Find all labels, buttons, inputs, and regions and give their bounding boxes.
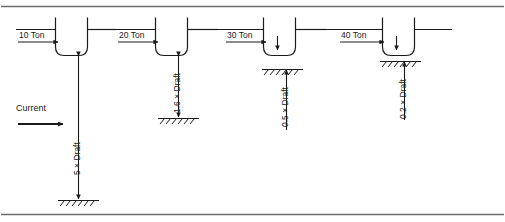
seabed-2	[158, 119, 199, 125]
clearance-label-4: 0.2 × Draft	[399, 79, 408, 119]
clearance-label-3: 0.5 × Draft	[281, 87, 290, 127]
diagram-canvas	[0, 0, 505, 222]
vessel-hull-2	[156, 18, 188, 56]
tow-force-label-2: 20 Ton	[119, 31, 144, 40]
current-label: Current	[16, 104, 46, 113]
tow-force-label-4: 40 Ton	[341, 31, 366, 40]
vessel-hull-3	[264, 18, 296, 56]
figure-frame	[1, 7, 504, 215]
vessel-hull-1	[56, 18, 88, 56]
shallow-water-tow-force-diagram: 10 Ton 20 Ton 30 Ton 40 Ton Current 5 × …	[0, 0, 505, 222]
seabed-4	[380, 62, 421, 68]
clearance-label-1: 5 × Draft	[73, 142, 82, 175]
clearance-label-2: 1.6 × Draft	[173, 73, 182, 113]
tow-force-label-1: 10 Ton	[19, 31, 44, 40]
tow-force-label-3: 30 Ton	[227, 31, 252, 40]
seabed-3	[262, 70, 303, 76]
vessel-hull-4	[383, 18, 415, 56]
seabed-1	[58, 201, 99, 207]
